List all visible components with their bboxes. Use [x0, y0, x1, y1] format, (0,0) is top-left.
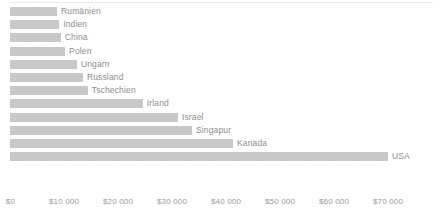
x-axis-tick-label: $50 000 — [265, 196, 295, 208]
x-axis: $0$10 000$20 000$30 000$40 000$50 000$60… — [0, 196, 441, 212]
bar-label: Israel — [182, 111, 204, 124]
x-axis-tick-label: $30 000 — [157, 196, 187, 208]
x-axis-tick-label: $10 000 — [49, 196, 79, 208]
bar-label: Russland — [87, 71, 124, 84]
bar-usa[interactable] — [10, 152, 388, 161]
bar-russland[interactable] — [10, 73, 83, 82]
bar-indien[interactable] — [10, 20, 59, 29]
bar-label: Polen — [69, 45, 92, 58]
bar-label: Irland — [147, 97, 169, 110]
bar-singapur[interactable] — [10, 126, 192, 135]
bar-chart: RumänienIndienChinaPolenUngarnRusslandTs… — [0, 0, 441, 220]
bar-tschechien[interactable] — [10, 86, 88, 95]
bar-irland[interactable] — [10, 99, 143, 108]
bar-label: Kanada — [237, 137, 267, 150]
x-axis-tick-label: $60 000 — [319, 196, 349, 208]
x-axis-tick-label: $20 000 — [103, 196, 133, 208]
bar-israel[interactable] — [10, 113, 178, 122]
bar-label: Indien — [63, 18, 87, 31]
bar-kanada[interactable] — [10, 139, 233, 148]
plot-area: RumänienIndienChinaPolenUngarnRusslandTs… — [0, 3, 441, 188]
bar-ungarn[interactable] — [10, 60, 77, 69]
x-axis-tick-label: $70 000 — [373, 196, 403, 208]
x-axis-tick-label: $40 000 — [211, 196, 241, 208]
bar-label: Ungarn — [81, 58, 110, 71]
bar-china[interactable] — [10, 33, 61, 42]
bar-label: Singapur — [196, 124, 231, 137]
bar-label: USA — [392, 150, 410, 163]
bar-label: Rumänien — [61, 5, 101, 18]
bar-polen[interactable] — [10, 47, 65, 56]
x-axis-tick-label: $0 — [6, 196, 15, 208]
bar-label: China — [65, 31, 88, 44]
bar-rum-nien[interactable] — [10, 7, 57, 16]
bar-label: Tschechien — [92, 84, 136, 97]
